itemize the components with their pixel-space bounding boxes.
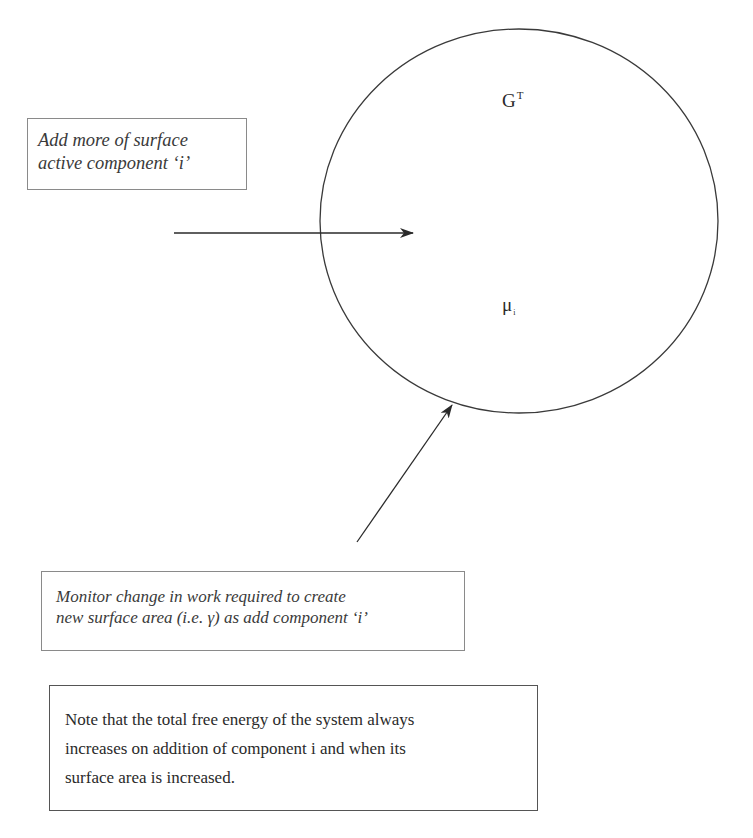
note-line-2: increases on addition of component i and… xyxy=(65,734,537,763)
mu-base: μ xyxy=(502,294,512,315)
note-line-1: Note that the total free energy of the s… xyxy=(65,705,537,734)
chemical-potential-label: μi xyxy=(502,294,515,317)
gt-base: G xyxy=(502,90,516,111)
monitor-box: Monitor change in work required to creat… xyxy=(41,571,465,651)
monitor-line-2: new surface area (i.e. γ) as add compone… xyxy=(56,607,464,628)
system-circle xyxy=(320,29,718,413)
mu-subscript: i xyxy=(513,308,515,317)
add-component-line-1: Add more of surface xyxy=(38,129,246,152)
gt-superscript: T xyxy=(517,89,524,101)
note-line-3: surface area is increased. xyxy=(65,763,537,792)
note-box: Note that the total free energy of the s… xyxy=(49,685,538,811)
monitor-surface-arrow xyxy=(357,405,452,542)
add-component-line-2: active component ‘i’ xyxy=(38,152,246,175)
monitor-line-1: Monitor change in work required to creat… xyxy=(56,586,464,607)
add-component-box: Add more of surface active component ‘i’ xyxy=(27,118,247,190)
total-free-energy-label: GT xyxy=(502,89,523,112)
